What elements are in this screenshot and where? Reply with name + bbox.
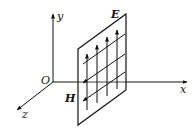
h-field-label: H xyxy=(64,92,76,105)
origin-label: O xyxy=(41,74,50,87)
x-axis-label: x xyxy=(180,83,187,96)
em-wave-diagram: y E O x H z xyxy=(0,0,195,131)
e-field-label: E xyxy=(110,8,120,21)
y-axis-label: y xyxy=(56,10,64,23)
z-axis-label: z xyxy=(21,108,28,121)
